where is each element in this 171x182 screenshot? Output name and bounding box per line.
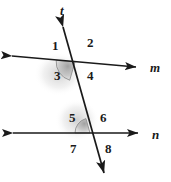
angle-label-8: 8 (105, 142, 112, 155)
line-label-n: n (152, 128, 159, 141)
angle-label-6: 6 (100, 111, 107, 124)
angle-label-4: 4 (87, 69, 94, 82)
angle-label-2: 2 (87, 36, 94, 49)
angle-label-1: 1 (52, 39, 59, 52)
angle-label-3: 3 (54, 69, 61, 82)
angle-label-7: 7 (70, 142, 77, 155)
geometry-canvas (0, 0, 171, 182)
angle-label-5: 5 (69, 111, 76, 124)
line-label-t: t (60, 4, 64, 17)
geometry-figure: t m n 1 2 3 4 5 6 7 8 (0, 0, 171, 182)
line-label-m: m (150, 61, 160, 74)
